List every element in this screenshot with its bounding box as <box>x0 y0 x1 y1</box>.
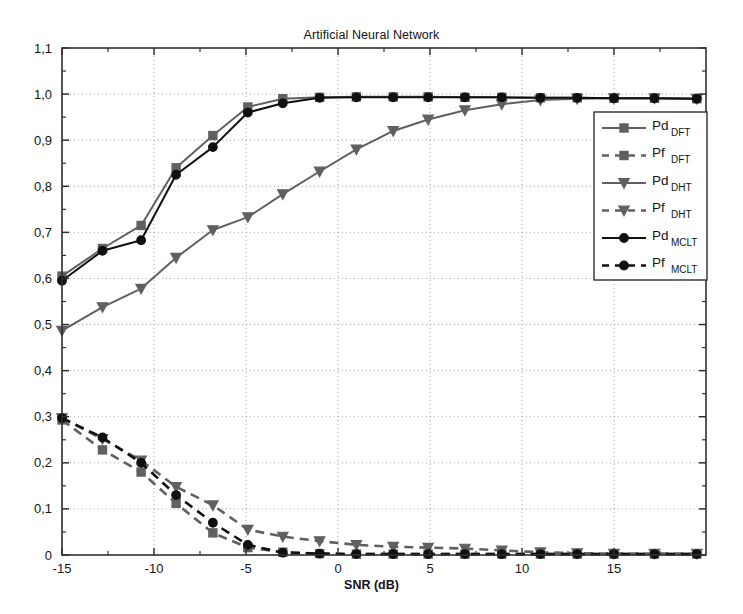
marker-circle <box>693 95 701 103</box>
series-line-pf-dft <box>62 420 697 554</box>
data-point-marker <box>278 190 288 200</box>
marker-triangle <box>351 145 361 155</box>
data-point-marker <box>314 167 324 177</box>
y-tick-label: 0,7 <box>34 225 52 240</box>
data-point-marker <box>620 152 628 160</box>
data-point-marker <box>209 519 217 527</box>
marker-circle <box>352 550 360 558</box>
marker-circle <box>137 459 145 467</box>
marker-circle <box>244 108 252 116</box>
series-line-pf-dht <box>62 418 697 554</box>
marker-circle <box>98 247 106 255</box>
marker-circle <box>536 550 544 558</box>
marker-circle <box>244 541 252 549</box>
data-point-marker <box>650 94 658 102</box>
x-tick-label: 0 <box>334 561 341 576</box>
marker-triangle <box>388 127 398 137</box>
data-point-marker <box>98 247 106 255</box>
data-point-marker <box>352 93 360 101</box>
marker-circle <box>573 94 581 102</box>
marker-triangle <box>136 284 146 294</box>
y-tick-label: 0,1 <box>34 501 52 516</box>
legend-label-base-0: Pd <box>652 118 669 133</box>
marker-circle <box>620 234 628 242</box>
y-tick-label: 0,4 <box>34 363 52 378</box>
x-tick-label: -5 <box>240 561 252 576</box>
marker-circle <box>98 433 106 441</box>
marker-circle <box>315 549 323 557</box>
y-tick-label: 0,3 <box>34 409 52 424</box>
data-point-marker <box>315 94 323 102</box>
marker-square <box>137 468 145 476</box>
legend-label-sub-5: MCLT <box>671 264 697 275</box>
marker-circle <box>172 171 180 179</box>
legend-label-sub-3: DHT <box>671 209 692 220</box>
data-point-marker <box>461 550 469 558</box>
marker-circle <box>498 93 506 101</box>
marker-circle <box>389 550 397 558</box>
marker-triangle <box>208 501 218 511</box>
marker-circle <box>536 94 544 102</box>
marker-circle <box>315 94 323 102</box>
x-tick-label: 15 <box>607 561 621 576</box>
marker-triangle <box>278 190 288 200</box>
data-point-marker <box>137 236 145 244</box>
marker-circle <box>650 550 658 558</box>
marker-circle <box>461 93 469 101</box>
data-point-marker <box>209 143 217 151</box>
data-point-marker <box>137 459 145 467</box>
data-point-marker <box>172 499 180 507</box>
x-tick-label: -10 <box>145 561 164 576</box>
data-point-marker <box>536 550 544 558</box>
y-tick-label: 0,8 <box>34 179 52 194</box>
data-point-marker <box>137 468 145 476</box>
data-point-marker <box>243 525 253 535</box>
marker-circle <box>424 550 432 558</box>
figure-container: Artificial Neural Network 00,10,20,30,40… <box>0 0 743 614</box>
data-point-marker <box>424 93 432 101</box>
marker-square <box>620 152 628 160</box>
data-point-marker <box>98 433 106 441</box>
data-point-marker <box>97 303 107 313</box>
data-point-marker <box>620 124 628 132</box>
data-point-marker <box>315 549 323 557</box>
marker-circle <box>389 93 397 101</box>
y-tick-label: 0,6 <box>34 271 52 286</box>
y-tick-label: 1,0 <box>34 87 52 102</box>
data-point-marker <box>498 93 506 101</box>
data-point-marker <box>389 93 397 101</box>
data-point-marker <box>244 108 252 116</box>
x-tick-label: 10 <box>515 561 529 576</box>
marker-circle <box>693 550 701 558</box>
data-point-marker <box>573 94 581 102</box>
marker-circle <box>424 93 432 101</box>
marker-square <box>98 446 106 454</box>
y-tick-label: 0,2 <box>34 455 52 470</box>
data-point-marker <box>351 145 361 155</box>
marker-triangle <box>97 303 107 313</box>
data-point-marker <box>424 550 432 558</box>
x-tick-label: 5 <box>426 561 433 576</box>
marker-circle <box>209 519 217 527</box>
data-point-marker <box>352 550 360 558</box>
chart-plot-area: 00,10,20,30,40,50,60,70,80,91,01,1-15-10… <box>0 0 743 614</box>
series-markers-pf-dht <box>57 414 702 559</box>
legend-label-sub-0: DFT <box>671 127 690 138</box>
marker-square <box>209 132 217 140</box>
legend: PdDFTPfDFTPdDHTPfDHTPdMCLTPfMCLT <box>594 112 707 280</box>
x-axis-label: SNR (dB) <box>0 578 743 592</box>
data-point-marker <box>620 234 628 242</box>
data-point-marker <box>693 95 701 103</box>
y-tick-label: 0 <box>45 548 52 563</box>
data-point-marker <box>620 261 628 269</box>
marker-square <box>620 124 628 132</box>
data-point-marker <box>573 550 581 558</box>
series-line-pf-mclt <box>62 418 697 554</box>
data-point-marker <box>172 491 180 499</box>
data-point-marker <box>208 501 218 511</box>
data-point-marker <box>536 94 544 102</box>
data-point-marker <box>98 446 106 454</box>
marker-circle <box>498 550 506 558</box>
legend-label-sub-1: DFT <box>671 154 690 165</box>
data-point-marker <box>209 132 217 140</box>
